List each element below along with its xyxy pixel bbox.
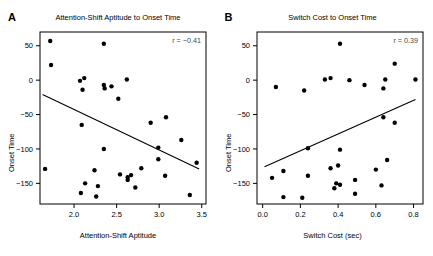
panel-b: B Switch Cost to Onset Time Onset Time S… <box>217 0 433 256</box>
panel-a-xtick-label: 2.0 <box>69 210 79 219</box>
panel-b-data-point <box>383 77 387 81</box>
panel-a-data-point <box>80 88 84 92</box>
panel-a-data-point <box>43 167 47 171</box>
panel-b-data-point <box>381 115 385 119</box>
panel-b-correlation-annotation: r = 0.39 <box>393 36 418 45</box>
panel-b-data-point <box>373 167 377 171</box>
panel-b-data-point <box>332 186 336 190</box>
panel-b-data-point <box>322 77 326 81</box>
panel-a-data-point <box>49 63 53 67</box>
panel-b-data-point <box>381 86 385 90</box>
panel-a-data-point <box>80 123 84 127</box>
panel-b-data-point <box>335 163 339 167</box>
panel-b-data-point <box>337 183 341 187</box>
panel-a-ytick-label: −100 <box>16 145 33 154</box>
panel-a-data-point <box>109 84 113 88</box>
panel-a-data-point <box>156 157 160 161</box>
panel-b-ytick-label: −50 <box>237 110 250 119</box>
panel-b-xtick-label: 0.0 <box>257 210 267 219</box>
panel-b-ytick-label: −150 <box>233 179 250 188</box>
panel-a-data-point <box>82 76 86 80</box>
figure-container: A Attention-Shift Aptitude to Onset Time… <box>0 0 433 256</box>
panel-b-data-point <box>281 195 285 199</box>
panel-a-trendline <box>43 95 200 169</box>
panel-b-ytick-label: 50 <box>241 41 249 50</box>
panel-a-data-point <box>133 185 137 189</box>
panel-a-xtick-label: 3.5 <box>197 210 207 219</box>
panel-a-data-point <box>164 115 168 119</box>
panel-b-data-point <box>379 183 383 187</box>
panel-b-data-point <box>347 78 351 82</box>
panel-b-data-point <box>384 158 388 162</box>
panel-b-axes-frame <box>257 32 423 204</box>
panel-b-plot: 500−50−100−1500.00.20.40.60.8r = 0.39 <box>217 0 433 256</box>
panel-b-data-point <box>392 121 396 125</box>
panel-a-data-point <box>188 193 192 197</box>
panel-b-data-point <box>362 83 366 87</box>
panel-b-data-point <box>300 196 304 200</box>
panel-a-data-point <box>194 161 198 165</box>
panel-a-data-point <box>139 166 143 170</box>
panel-a-ytick-label: 50 <box>25 41 33 50</box>
panel-a-axes-frame <box>40 32 206 204</box>
panel-a-data-point <box>156 145 160 149</box>
panel-b-data-point <box>392 61 396 65</box>
panel-b-xtick-label: 0.8 <box>408 210 418 219</box>
panel-a-data-point <box>118 172 122 176</box>
panel-b-data-point <box>269 176 273 180</box>
panel-b-data-point <box>328 76 332 80</box>
panel-a-data-point <box>92 168 96 172</box>
panel-b-xtick-label: 0.2 <box>295 210 305 219</box>
panel-a-data-point <box>102 86 106 90</box>
panel-a-data-point <box>83 181 87 185</box>
panel-a-data-point <box>94 194 98 198</box>
panel-b-data-point <box>337 147 341 151</box>
panel-a-data-point <box>79 191 83 195</box>
panel-a-ytick-label: 0 <box>29 76 33 85</box>
panel-b-data-point <box>281 169 285 173</box>
panel-a-data-point <box>125 77 129 81</box>
panel-a-data-point <box>116 97 120 101</box>
panel-b-data-point <box>352 178 356 182</box>
panel-a-correlation-annotation: r = −0.41 <box>172 36 201 45</box>
panel-a-data-point <box>125 178 129 182</box>
panel-a-data-point <box>102 147 106 151</box>
panel-b-data-point <box>305 146 309 150</box>
panel-b-data-point <box>334 181 338 185</box>
panel-a-data-point <box>48 39 52 43</box>
panel-b-data-point <box>352 191 356 195</box>
panel-b-data-point <box>413 77 417 81</box>
panel-b-data-point <box>337 41 341 45</box>
panel-b-xtick-label: 0.4 <box>332 210 342 219</box>
panel-a-data-point <box>102 41 106 45</box>
panel-b-data-point <box>328 166 332 170</box>
panel-b-xtick-label: 0.6 <box>370 210 380 219</box>
panel-a-xtick-label: 3.0 <box>154 210 164 219</box>
panel-a-data-point <box>148 121 152 125</box>
panel-b-ytick-label: −100 <box>233 145 250 154</box>
panel-a-xtick-label: 2.5 <box>111 210 121 219</box>
panel-a-data-point <box>179 138 183 142</box>
panel-a-ytick-label: −50 <box>20 110 33 119</box>
panel-a-plot: 500−50−100−1502.02.53.03.5r = −0.41 <box>0 0 216 256</box>
panel-b-data-point <box>305 174 309 178</box>
panel-a: A Attention-Shift Aptitude to Onset Time… <box>0 0 217 256</box>
panel-b-ytick-label: 0 <box>245 76 249 85</box>
panel-b-data-point <box>301 88 305 92</box>
panel-a-data-point <box>163 174 167 178</box>
panel-b-trendline <box>264 99 415 166</box>
panel-a-data-point <box>96 184 100 188</box>
panel-a-data-point <box>78 79 82 83</box>
panel-a-ytick-label: −150 <box>16 179 33 188</box>
panel-b-data-point <box>273 85 277 89</box>
